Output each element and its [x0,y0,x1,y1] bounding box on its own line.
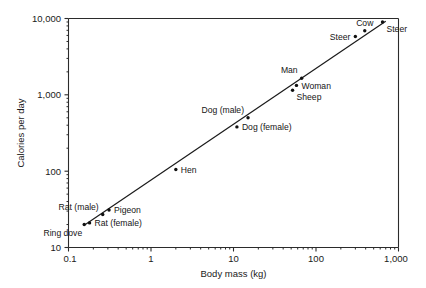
data-point [291,89,294,92]
y-tick-label-10000: 10,000 [32,13,61,24]
data-point-label: Sheep [297,92,322,102]
x-tick-label-10: 10 [228,253,239,264]
x-tick-label-0.1: 0.1 [63,253,76,264]
y-tick-label-10: 10 [50,242,61,253]
data-point [295,84,298,87]
data-point [246,116,249,119]
data-point-label: Steer [330,32,351,42]
data-point [381,20,384,23]
data-point-label: Rat (male) [59,202,99,212]
data-point [107,208,110,211]
x-axis-title: Body mass (kg) [201,268,267,279]
data-point [88,221,91,224]
data-point-label: Hen [181,165,197,175]
x-tick-label-1: 1 [148,253,153,264]
chart-page: 10,000 1,000 100 10 0.1 1 10 100 1,000 B… [0,0,426,288]
x-tick-label-1000: 1,000 [384,253,408,264]
y-axis-title: Calories per day [15,98,26,167]
data-point-label: Steer [387,24,408,34]
data-point [354,35,357,38]
y-axis-ticks [65,19,69,248]
x-tick-label-100: 100 [308,253,324,264]
scatter-plot: 10,000 1,000 100 10 0.1 1 10 100 1,000 B… [0,0,426,288]
data-point-label: Rat (female) [95,218,142,228]
data-point [83,223,86,226]
data-point-label: Dog (male) [202,105,245,115]
data-point [300,77,303,80]
data-point-label: Man [281,65,298,75]
y-tick-label-1000: 1,000 [37,89,61,100]
data-point [174,168,177,171]
data-point [101,213,104,216]
data-point [363,29,366,32]
x-axis-ticks [69,248,399,252]
data-point-label: Ring dove [43,228,82,238]
regression-line [84,21,386,225]
point-labels-layer: Ring doveRat (female)Rat (male)PigeonHen… [43,18,407,238]
data-point-label: Dog (female) [242,122,292,132]
y-tick-label-100: 100 [45,166,61,177]
data-point [235,125,238,128]
data-point-label: Woman [301,81,331,91]
data-point-label: Cow [356,18,374,28]
data-point-label: Pigeon [114,205,141,215]
